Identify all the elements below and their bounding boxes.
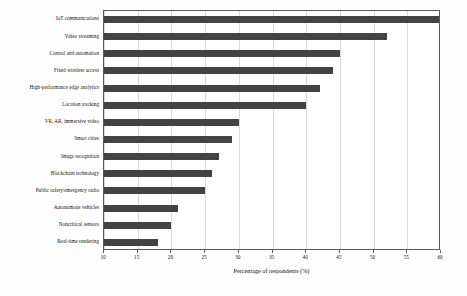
bar-row (104, 165, 440, 182)
x-tick-mark (204, 250, 205, 253)
x-tick-label: 45 (336, 254, 341, 261)
bar-row (104, 114, 440, 131)
bar-row (104, 200, 440, 217)
x-tick-mark (339, 250, 340, 253)
bar (104, 153, 219, 160)
x-tick-mark (373, 250, 374, 253)
x-tick-label: 60 (437, 254, 442, 261)
x-tick-label: 15 (134, 254, 139, 261)
y-axis-label: Video streaming (0, 33, 99, 39)
x-tick-label: 50 (370, 254, 375, 261)
bar-chart: IoT communicationsVideo streamingControl… (0, 0, 467, 296)
y-axis-label: High-performance edge analytics (0, 84, 99, 90)
y-axis-label: Fixed wireless access (0, 67, 99, 73)
y-axis-label: IoT communications (0, 15, 99, 21)
bar-row (104, 28, 440, 45)
bar (104, 205, 178, 212)
bar (104, 85, 320, 92)
x-tick-label: 25 (202, 254, 207, 261)
x-tick-mark (103, 250, 104, 253)
y-axis-label: Control and automation (0, 50, 99, 56)
y-axis-label: Noncritical sensors (0, 221, 99, 227)
bar (104, 33, 387, 40)
bar (104, 170, 212, 177)
bar-row (104, 62, 440, 79)
bar-row (104, 11, 440, 28)
x-tick-label: 35 (269, 254, 274, 261)
bar (104, 222, 171, 229)
bar-row (104, 131, 440, 148)
bar-row (104, 182, 440, 199)
bar (104, 136, 232, 143)
x-tick-mark (137, 250, 138, 253)
x-tick-label: 20 (168, 254, 173, 261)
bar-row (104, 80, 440, 97)
x-tick-label: 55 (404, 254, 409, 261)
y-axis-label: Smart cities (0, 135, 99, 141)
bar (104, 16, 440, 23)
x-tick-label: 40 (303, 254, 308, 261)
x-axis-ticks: 1015202530354045505560 (103, 250, 440, 262)
bar (104, 187, 205, 194)
bar-row (104, 148, 440, 165)
x-tick-mark (170, 250, 171, 253)
x-tick-mark (440, 250, 441, 253)
x-axis-title: Percentage of respondents (%) (103, 266, 440, 275)
bar-row (104, 97, 440, 114)
x-tick-mark (305, 250, 306, 253)
y-axis-label: VR, AR, immersive video (0, 118, 99, 124)
plot-area (103, 10, 440, 250)
bar (104, 50, 340, 57)
y-axis-category-labels: IoT communicationsVideo streamingControl… (0, 10, 99, 250)
x-tick-label: 30 (235, 254, 240, 261)
y-axis-label: Location tracking (0, 101, 99, 107)
bar-row (104, 45, 440, 62)
y-axis-label: Autonomous vehicles (0, 204, 99, 210)
x-tick-mark (238, 250, 239, 253)
bars-layer (104, 11, 439, 249)
x-tick-label: 10 (100, 254, 105, 261)
y-axis-label: Blockchain technology (0, 170, 99, 176)
y-axis-label: Real-time rendering (0, 238, 99, 244)
bar (104, 102, 306, 109)
bar (104, 239, 158, 246)
bar-row (104, 217, 440, 234)
x-tick-mark (406, 250, 407, 253)
x-tick-mark (272, 250, 273, 253)
bar (104, 119, 239, 126)
y-axis-label: Public safety/emergency radio (0, 187, 99, 193)
bar-row (104, 234, 440, 250)
bar (104, 67, 333, 74)
y-axis-label: Image recognition (0, 153, 99, 159)
